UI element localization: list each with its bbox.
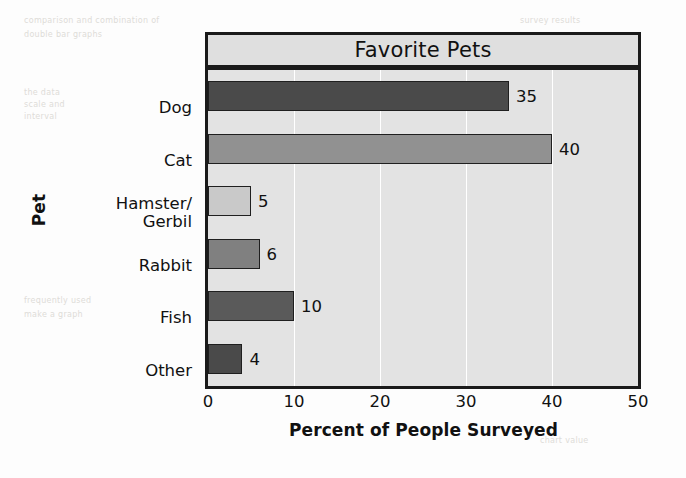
bar-value-label: 6 bbox=[267, 247, 278, 264]
bar-value-label: 4 bbox=[249, 352, 260, 369]
gridline bbox=[380, 70, 381, 386]
gridline bbox=[294, 70, 295, 386]
y-axis-tick-label: Other bbox=[145, 362, 192, 380]
x-axis-tick-label: 0 bbox=[203, 392, 214, 411]
x-axis-tick-label: 10 bbox=[284, 392, 305, 411]
x-axis-tick-label: 40 bbox=[542, 392, 563, 411]
y-axis-title: Pet bbox=[29, 165, 49, 255]
y-axis-tick-label: Cat bbox=[164, 152, 192, 170]
bar-value-label: 5 bbox=[258, 194, 269, 211]
bar-value-label: 10 bbox=[301, 299, 322, 316]
y-axis-tick-label: Dog bbox=[159, 99, 192, 117]
chart-title-bar: Favorite Pets bbox=[205, 32, 641, 68]
bar-value-label: 35 bbox=[516, 89, 537, 106]
bar bbox=[208, 134, 552, 164]
bar bbox=[208, 186, 251, 216]
x-axis-tick-label: 50 bbox=[628, 392, 649, 411]
y-axis-tick-label: Fish bbox=[160, 309, 192, 327]
gridline bbox=[552, 70, 553, 386]
scanned-page: comparison and combination ofdouble bar … bbox=[0, 0, 686, 478]
bar bbox=[208, 81, 509, 111]
bar-chart-figure: Pet DogCatHamster/ GerbilRabbitFishOther… bbox=[0, 0, 686, 478]
x-axis-tick-label: 20 bbox=[370, 392, 391, 411]
x-axis-title: Percent of People Surveyed bbox=[205, 420, 642, 440]
bar bbox=[208, 344, 242, 374]
x-axis-tick-label: 30 bbox=[456, 392, 477, 411]
bar bbox=[208, 291, 294, 321]
chart-title: Favorite Pets bbox=[354, 38, 491, 62]
bar bbox=[208, 239, 260, 269]
gridline bbox=[466, 70, 467, 386]
plot-inner bbox=[208, 70, 638, 386]
y-axis-tick-label: Rabbit bbox=[139, 257, 192, 275]
y-axis-tick-label: Hamster/ Gerbil bbox=[116, 195, 192, 231]
bar-value-label: 40 bbox=[559, 142, 580, 159]
y-axis-tick-labels: DogCatHamster/ GerbilRabbitFishOther bbox=[60, 79, 200, 389]
plot-area bbox=[205, 68, 641, 389]
x-axis-tick-labels: 01020304050 bbox=[205, 392, 641, 418]
